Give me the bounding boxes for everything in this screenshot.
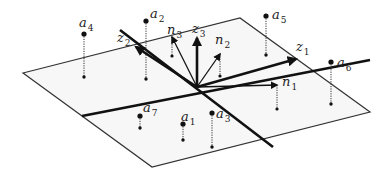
- point-a3: [209, 110, 214, 115]
- vector-label-z1: z1: [295, 39, 310, 57]
- point-a5: [263, 13, 268, 18]
- point-label-a5: a5: [272, 7, 287, 25]
- point-foot-a6: [329, 102, 332, 105]
- point-label-a6: a6: [337, 55, 352, 73]
- point-label-a4: a4: [79, 15, 94, 33]
- point-label-a2: a2: [150, 6, 165, 24]
- point-foot-a3: [210, 145, 213, 148]
- foot-dot-n3-foot: [170, 54, 173, 57]
- point-a2: [143, 18, 148, 23]
- point-a4: [81, 31, 86, 36]
- point-foot-a4: [82, 75, 85, 78]
- foot-dot-n2-foot: [218, 74, 221, 77]
- point-a6: [328, 59, 333, 64]
- point-a7: [137, 113, 142, 118]
- foot-dot-n1-foot: [275, 107, 278, 110]
- point-foot-a1: [181, 138, 184, 141]
- point-foot-a2: [144, 77, 147, 80]
- projection-diagram: z1z2z3n1n2n3a1a2a3a4a5a6a7: [0, 0, 389, 178]
- point-foot-a5: [264, 53, 267, 56]
- point-foot-a7: [138, 126, 141, 129]
- vector-label-z2: z2: [116, 30, 131, 48]
